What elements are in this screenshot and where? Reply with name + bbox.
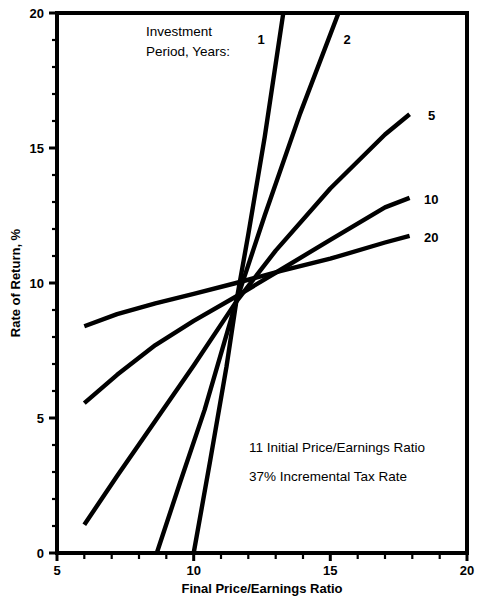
series-curve-5 xyxy=(84,114,409,524)
series-label-20: 20 xyxy=(424,230,438,245)
series-label-10: 10 xyxy=(424,192,438,207)
y-tick-label-5: 5 xyxy=(37,411,44,426)
y-tick-label-20: 20 xyxy=(30,6,44,21)
x-tick-label-15: 15 xyxy=(323,563,337,578)
x-tick-label-5: 5 xyxy=(53,563,60,578)
y-tick-label-10: 10 xyxy=(30,276,44,291)
x-tick-label-20: 20 xyxy=(460,563,474,578)
legend-title-line2: Period, Years: xyxy=(146,44,230,59)
series-label-2: 2 xyxy=(343,32,350,47)
chart-figure: 20 15 10 5 0 Rate of Return, % xyxy=(0,0,488,596)
y-tick-label-0: 0 xyxy=(37,546,44,561)
annotation-initial-pe-ratio: 11 Initial Price/Earnings Ratio xyxy=(249,440,425,455)
x-tick-label-10: 10 xyxy=(186,563,200,578)
y-axis-title: Rate of Return, % xyxy=(8,228,23,337)
series-curve-10 xyxy=(84,198,409,403)
annotation-incremental-tax-rate: 37% Incremental Tax Rate xyxy=(249,469,407,484)
series-label-5: 5 xyxy=(428,108,435,123)
series-label-1: 1 xyxy=(257,32,264,47)
x-axis-title: Final Price/Earnings Ratio xyxy=(181,581,342,596)
y-tick-label-15: 15 xyxy=(30,141,44,156)
rate-of-return-chart: 20 15 10 5 0 Rate of Return, % xyxy=(0,0,488,596)
legend-title-line1: Investment xyxy=(146,24,212,39)
